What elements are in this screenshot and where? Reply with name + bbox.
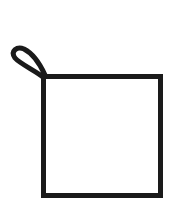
square-outline [44,77,161,196]
pot-holder-drawing [0,0,180,209]
hanging-loop [13,48,45,78]
